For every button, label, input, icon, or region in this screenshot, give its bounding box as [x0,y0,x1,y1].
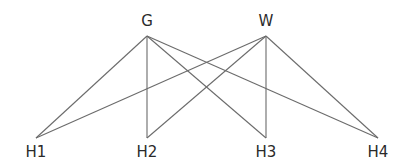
edge-w-h1 [36,36,266,138]
node-label-h3: H3 [256,145,277,160]
node-label-h1: H1 [26,145,47,160]
edge-g-h1 [36,36,147,138]
node-label-h2: H2 [137,145,158,160]
node-label-w: W [259,14,274,29]
edge-g-h4 [147,36,378,138]
node-label-h4: H4 [368,145,389,160]
node-label-g: G [141,14,153,29]
edge-layer [0,0,415,166]
edge-w-h4 [266,36,378,138]
